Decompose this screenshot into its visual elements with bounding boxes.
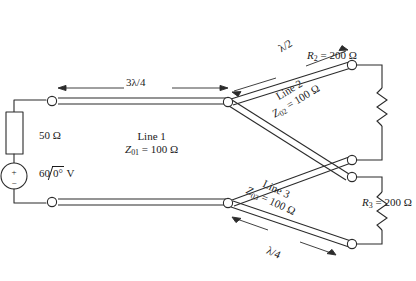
circuit-schematic xyxy=(0,0,416,281)
resistor-50ohm-body xyxy=(6,112,23,154)
line1-impedance: Z01 = 100 Ω xyxy=(125,143,178,155)
source-branch xyxy=(1,100,46,203)
terminal-line1-input-top xyxy=(47,96,56,105)
wire-resistor-to-top-terminal xyxy=(14,100,46,112)
transmission-line-figure: + − 50 Ω 600° V 3λ/4 Line 1 Z01 = 100 Ω … xyxy=(0,0,416,281)
load-r3-label: R3 = 200 Ω xyxy=(362,196,412,210)
wire-to-r2-top xyxy=(356,65,382,88)
terminal-line3-load-bottom xyxy=(347,239,356,248)
load-r2-subscript: 2 xyxy=(314,54,318,63)
wire-to-r2-bottom xyxy=(356,126,382,160)
dimension-lambda4 xyxy=(232,217,336,255)
wire-source-to-bottom-terminal xyxy=(14,189,46,203)
dim-l4-arrowhead-lower xyxy=(327,249,336,255)
terminal-line1-input-bottom xyxy=(47,197,56,206)
dim-l4-arrowhead-upper xyxy=(232,217,241,223)
load-r3-symbol: R xyxy=(362,196,369,208)
load-r2-symbol: R xyxy=(307,49,314,61)
load-r2-value: = 200 Ω xyxy=(320,49,356,61)
phasor-angle-symbol: 0° xyxy=(50,166,64,180)
load-r3-subscript: 3 xyxy=(369,201,373,210)
wire-to-r3-bottom xyxy=(356,230,382,244)
line3-conductors xyxy=(229,100,351,247)
junction-node-top xyxy=(223,97,232,106)
line1-impedance-subscript: 01 xyxy=(131,148,139,157)
load3-network xyxy=(356,177,387,244)
dim-3l4-arrowhead-right xyxy=(220,85,228,90)
wire-to-r3-top xyxy=(356,177,382,192)
dim-l2-lower-shaft xyxy=(234,78,276,91)
terminal-line2-load-bottom xyxy=(347,155,356,164)
junction-node-bottom xyxy=(223,198,232,207)
resistor-r2-zigzag xyxy=(377,88,387,126)
line1-name: Line 1 xyxy=(125,130,178,143)
source-voltage-label: 600° V xyxy=(39,166,74,180)
dim-3l4-arrowhead-left xyxy=(58,85,66,90)
line3-upper-rail-bottom xyxy=(229,106,346,180)
load-r2-label: R2 = 200 Ω xyxy=(307,49,357,63)
load2-network xyxy=(356,65,387,160)
resistor-50ohm-label: 50 Ω xyxy=(39,129,61,142)
source-voltage-unit: V xyxy=(66,167,74,179)
dim-l2-arrowhead-lower xyxy=(232,92,241,97)
load-r3-value: = 200 Ω xyxy=(375,196,411,208)
line1-impedance-value: = 100 Ω xyxy=(142,143,178,155)
terminal-line3-load-top xyxy=(347,172,356,181)
source-voltage-angle: 0° xyxy=(52,166,64,180)
source-minus-sign: − xyxy=(12,179,17,188)
line1-label-group: Line 1 Z01 = 100 Ω xyxy=(125,130,178,157)
dimension-label-line1-length: 3λ/4 xyxy=(126,76,145,89)
source-plus-sign: + xyxy=(12,168,17,177)
